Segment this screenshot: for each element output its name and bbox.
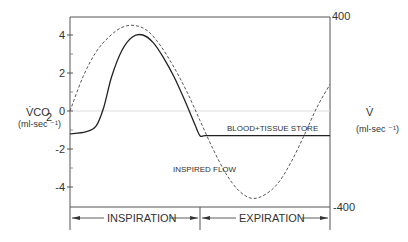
right-tick-label-400: 400	[332, 10, 350, 22]
left-tick-label: -2	[55, 143, 65, 155]
annotation-store: BLOOD+TISSUE STORE	[227, 124, 318, 133]
left-tick-label: 0	[59, 105, 65, 117]
left-tick-label: 2	[59, 67, 65, 79]
left-axis-unit: (ml-sec ⁻¹)	[18, 119, 61, 129]
right-axis-unit: (ml-sec ⁻¹)	[356, 124, 399, 134]
arrow-head-left-icon	[202, 216, 210, 220]
arrow-head-left-icon	[72, 216, 80, 220]
phase-label-expiration: EXPIRATION	[239, 212, 305, 224]
arrow-head-right-icon	[320, 216, 328, 220]
phase-expiration: EXPIRATION	[202, 212, 328, 224]
phase-label-inspiration: INSPIRATION	[107, 212, 177, 224]
left-tick-label: -4	[55, 181, 65, 193]
left-tick-label: 4	[59, 29, 65, 41]
arrow-head-right-icon	[190, 216, 198, 220]
annotation-flow: INSPIRED FLOW	[173, 165, 237, 174]
right-axis-label: V̇	[366, 106, 374, 118]
phase-inspiration: INSPIRATION	[72, 212, 198, 224]
right-tick-label-neg400: -400	[333, 201, 355, 213]
chart: 420-2-4 V̇CO 2 (ml-sec ⁻¹) 400 -400 V̇ (…	[0, 0, 408, 242]
